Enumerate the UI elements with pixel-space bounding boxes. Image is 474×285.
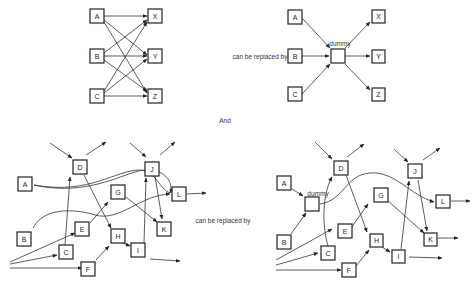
dummy-label: dummy bbox=[307, 190, 329, 198]
node-g: G bbox=[374, 188, 388, 202]
node-e: E bbox=[338, 224, 352, 238]
node-b: B bbox=[90, 49, 104, 63]
svg-text:C: C bbox=[94, 93, 99, 100]
node-a: A bbox=[18, 177, 32, 191]
dummy-node bbox=[331, 49, 345, 63]
node-c: C bbox=[288, 87, 302, 101]
node-k: K bbox=[157, 222, 171, 236]
svg-text:D: D bbox=[338, 165, 343, 172]
node-y: Y bbox=[372, 50, 385, 63]
top-right-graph: A B C dummy X Y Z bbox=[288, 10, 385, 101]
node-g: G bbox=[111, 185, 125, 199]
svg-text:H: H bbox=[374, 237, 379, 244]
svg-text:K: K bbox=[162, 226, 167, 233]
bottom-right-graph: A dummy B C D E F G H I J K L bbox=[276, 142, 470, 277]
svg-text:D: D bbox=[77, 164, 82, 171]
node-j: J bbox=[408, 164, 422, 178]
separator-text: And bbox=[219, 117, 231, 124]
node-i: I bbox=[392, 250, 405, 263]
bottom-left-graph: A B C D E F G H I J K L bbox=[10, 142, 206, 276]
svg-text:F: F bbox=[86, 266, 90, 273]
svg-text:G: G bbox=[115, 189, 120, 196]
svg-text:Y: Y bbox=[376, 53, 381, 60]
svg-text:Y: Y bbox=[153, 53, 158, 60]
svg-text:A: A bbox=[293, 14, 298, 21]
node-f: F bbox=[342, 263, 356, 277]
svg-text:A: A bbox=[23, 181, 28, 188]
node-x: X bbox=[148, 9, 162, 23]
node-b: B bbox=[288, 49, 302, 63]
node-b: B bbox=[17, 232, 31, 246]
node-h: H bbox=[370, 234, 383, 247]
node-a: A bbox=[90, 9, 104, 23]
svg-text:L: L bbox=[177, 191, 181, 198]
node-c: C bbox=[59, 245, 73, 259]
svg-text:J: J bbox=[413, 168, 417, 175]
top-caption: can be replaced by bbox=[233, 53, 289, 61]
svg-text:Z: Z bbox=[153, 93, 158, 100]
svg-text:A: A bbox=[95, 13, 100, 20]
svg-text:X: X bbox=[376, 13, 381, 20]
node-e: E bbox=[75, 222, 89, 236]
node-z: Z bbox=[148, 89, 162, 103]
svg-text:E: E bbox=[343, 228, 348, 235]
svg-text:J: J bbox=[150, 166, 154, 173]
node-x: X bbox=[372, 10, 385, 23]
svg-text:C: C bbox=[292, 91, 297, 98]
node-y: Y bbox=[148, 49, 162, 63]
node-d: D bbox=[73, 160, 87, 174]
svg-text:I: I bbox=[137, 247, 139, 254]
svg-text:K: K bbox=[428, 236, 433, 243]
svg-text:G: G bbox=[378, 192, 383, 199]
node-l: L bbox=[172, 187, 186, 201]
svg-text:E: E bbox=[80, 226, 85, 233]
dummy-label: dummy bbox=[329, 40, 351, 48]
svg-text:Z: Z bbox=[376, 91, 381, 98]
svg-text:I: I bbox=[398, 253, 400, 260]
node-b: B bbox=[277, 235, 291, 249]
svg-text:A: A bbox=[282, 180, 287, 187]
node-a: A bbox=[277, 176, 291, 190]
svg-text:L: L bbox=[441, 198, 445, 205]
svg-text:B: B bbox=[282, 239, 287, 246]
svg-text:F: F bbox=[347, 267, 351, 274]
node-i: I bbox=[131, 243, 145, 257]
node-f: F bbox=[81, 262, 95, 276]
svg-text:B: B bbox=[95, 53, 100, 60]
node-j: J bbox=[145, 162, 159, 176]
node-l: L bbox=[436, 195, 450, 208]
node-a: A bbox=[288, 10, 302, 24]
node-c: C bbox=[321, 246, 335, 260]
svg-text:C: C bbox=[63, 249, 68, 256]
bottom-caption: can be replaced by bbox=[196, 217, 252, 225]
svg-text:B: B bbox=[22, 236, 27, 243]
svg-text:X: X bbox=[153, 13, 158, 20]
node-h: H bbox=[111, 229, 125, 243]
svg-text:B: B bbox=[293, 53, 298, 60]
network-diagram: A B C X Y Z can be replaced by A B C dum… bbox=[0, 0, 474, 285]
svg-text:H: H bbox=[115, 233, 120, 240]
node-k: K bbox=[424, 233, 437, 246]
dummy-node bbox=[305, 197, 319, 211]
svg-text:C: C bbox=[325, 250, 330, 257]
node-z: Z bbox=[372, 88, 385, 101]
node-d: D bbox=[334, 161, 348, 175]
node-c: C bbox=[90, 89, 104, 103]
top-left-graph: A B C X Y Z bbox=[90, 9, 162, 103]
